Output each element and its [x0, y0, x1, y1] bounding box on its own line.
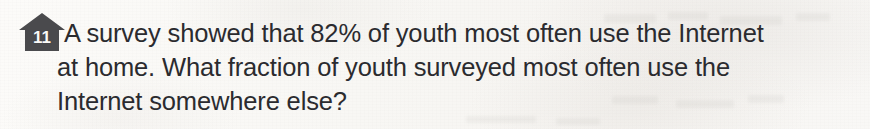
problem-text-line-2: at home. What fraction of youth surveyed…	[57, 50, 857, 84]
problem-text-line-1: A survey showed that 82% of youth most o…	[57, 16, 857, 50]
problem-text-line-3: Internet somewhere else?	[57, 84, 857, 118]
problem-text: A survey showed that 82% of youth most o…	[57, 16, 857, 118]
scanned-page: 11 A survey showed that 82% of youth mos…	[0, 0, 870, 129]
